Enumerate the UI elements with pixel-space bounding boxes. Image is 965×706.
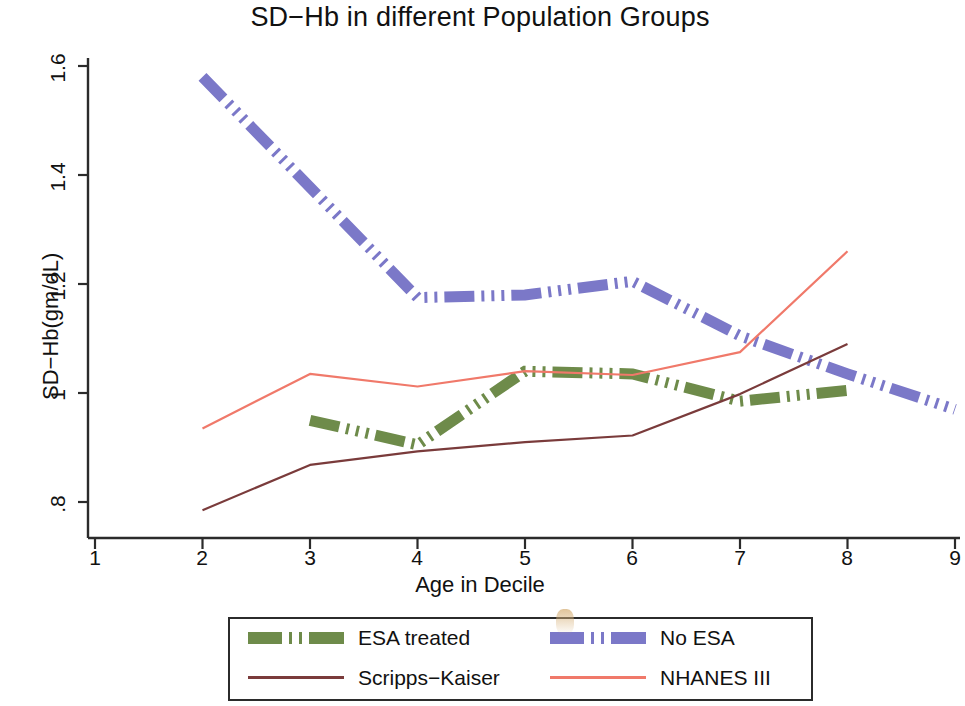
legend-swatch-esa-treated <box>248 632 344 644</box>
legend-entry-nhanes-iii: NHANES III <box>550 667 771 688</box>
legend-entry-no-esa: No ESA <box>550 627 735 648</box>
legend-label-esa-treated: ESA treated <box>358 627 470 648</box>
legend-swatch-scripps-kaiser <box>248 676 344 679</box>
series-line-no-esa <box>203 77 956 410</box>
legend-label-nhanes-iii: NHANES III <box>660 667 771 688</box>
axis-lines <box>78 58 960 549</box>
legend-entry-esa-treated: ESA treated <box>248 627 470 648</box>
legend-swatch-no-esa <box>550 632 646 644</box>
legend-label-no-esa: No ESA <box>660 627 735 648</box>
legend-swatch-nhanes-iii <box>550 676 646 679</box>
data-series-layer <box>203 77 956 510</box>
legend: ESA treated No ESA Scripps−Kaiser NHANES… <box>228 617 813 701</box>
legend-entry-scripps-kaiser: Scripps−Kaiser <box>248 667 500 688</box>
legend-label-scripps-kaiser: Scripps−Kaiser <box>358 667 500 688</box>
